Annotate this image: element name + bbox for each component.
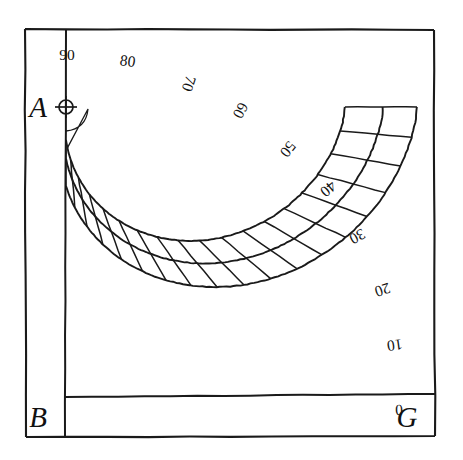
quadrant-figure: 9080706050403020100 ABG bbox=[0, 0, 463, 460]
degree-cell-divider bbox=[200, 241, 222, 263]
point-a: A bbox=[27, 91, 47, 123]
degree-cell-divider bbox=[353, 184, 385, 193]
degree-cell-divider bbox=[246, 258, 270, 278]
degree-cell-divider bbox=[318, 174, 353, 183]
scale-label-40: 40 bbox=[317, 178, 340, 201]
degree-cell-divider bbox=[173, 260, 191, 285]
scale-label-50: 50 bbox=[277, 138, 300, 161]
scale-label-20: 20 bbox=[372, 280, 392, 301]
degree-cell-divider bbox=[222, 263, 244, 285]
scale-label-80: 80 bbox=[119, 51, 137, 70]
degree-cell-divider bbox=[316, 223, 346, 237]
degree-cell-divider bbox=[270, 250, 296, 268]
degree-cell-divider bbox=[178, 240, 197, 263]
degree-cell-divider bbox=[222, 238, 247, 259]
scale-label-70: 70 bbox=[179, 74, 200, 94]
center-fillet bbox=[66, 109, 88, 148]
degree-cell-divider bbox=[367, 160, 400, 166]
degree-cell-divider bbox=[243, 231, 270, 250]
arc-outer-boundary bbox=[66, 107, 417, 287]
scale-label-30: 30 bbox=[347, 226, 369, 248]
degree-cell-divider bbox=[340, 131, 378, 134]
degree-cell-divider bbox=[336, 205, 367, 216]
quadrant-drawing: 9080706050403020100 ABG bbox=[0, 0, 463, 460]
point-b: B bbox=[29, 401, 47, 433]
degree-cell-divider bbox=[294, 239, 322, 255]
quadrant-limbs bbox=[65, 29, 435, 437]
scale-label-60: 60 bbox=[230, 100, 252, 122]
outer-frame bbox=[25, 29, 436, 437]
degree-cell-divider bbox=[284, 209, 316, 224]
degree-cell-divider bbox=[378, 134, 412, 137]
scale-label-10: 10 bbox=[386, 336, 404, 355]
vertical-limb-ab bbox=[65, 29, 66, 437]
degree-cell-divider bbox=[197, 263, 217, 287]
degree-cell-divider bbox=[331, 154, 368, 160]
scale-label-90: 90 bbox=[59, 46, 75, 63]
horizontal-limb-bg bbox=[65, 394, 435, 397]
scale-arcs bbox=[66, 107, 417, 287]
degree-cell-divider bbox=[264, 221, 294, 238]
point-g: G bbox=[397, 401, 418, 433]
center-crosshair bbox=[55, 96, 77, 118]
